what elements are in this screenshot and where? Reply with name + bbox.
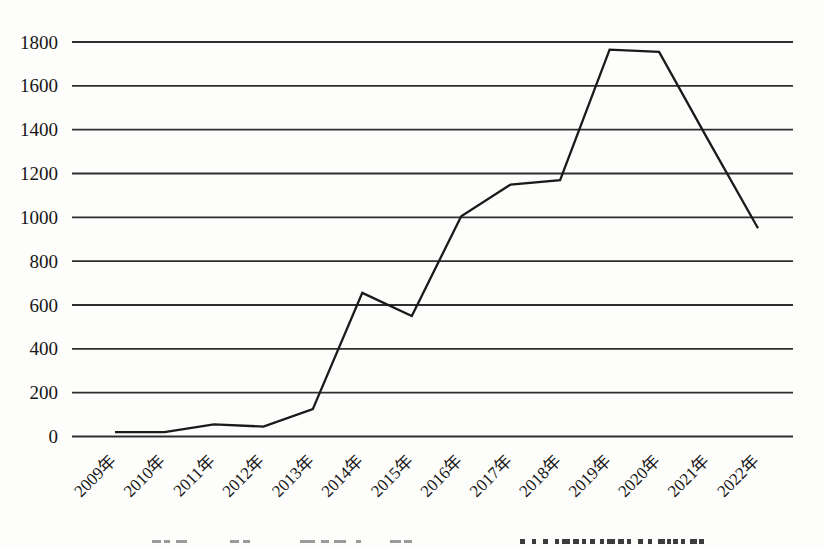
caption-glyph-top <box>658 539 665 544</box>
x-axis-tick-label: 2011年 <box>170 451 219 500</box>
caption-glyph-top <box>176 540 187 543</box>
data-line <box>115 50 758 432</box>
x-axis-tick-label: 2022年 <box>713 451 762 500</box>
caption-glyph-top <box>555 539 559 544</box>
x-axis-tick-label: 2021年 <box>664 451 713 500</box>
x-axis-tick-label: 2010年 <box>120 451 169 500</box>
caption-glyph-top <box>573 539 579 544</box>
caption-glyph-top <box>520 539 525 544</box>
caption-glyph-top <box>673 539 678 544</box>
caption-cropped-text <box>0 537 823 546</box>
caption-glyph-top <box>699 539 704 544</box>
caption-glyph-top <box>638 539 643 544</box>
caption-glyph-top <box>590 539 595 544</box>
x-axis-tick-label: 2019年 <box>565 451 614 500</box>
caption-glyph-top <box>243 540 250 543</box>
caption-glyph-top <box>532 539 536 544</box>
x-axis-tick-label: 2018年 <box>515 451 564 500</box>
caption-glyph-top <box>356 540 361 543</box>
caption-glyph-top <box>300 540 315 543</box>
y-axis-tick-label: 200 <box>30 382 59 403</box>
caption-glyph-top <box>152 540 161 543</box>
caption-glyph-top <box>648 539 652 544</box>
x-axis-tick-label: 2012年 <box>219 451 268 500</box>
y-axis-tick-label: 1600 <box>20 75 58 96</box>
x-axis-tick-label: 2016年 <box>417 451 466 500</box>
x-axis-tick-label: 2013年 <box>268 451 317 500</box>
y-axis-tick-label: 400 <box>30 338 59 359</box>
x-axis-tick-label: 2014年 <box>318 451 367 500</box>
caption-glyph-top <box>321 540 329 543</box>
y-axis-tick-label: 600 <box>30 295 59 316</box>
caption-glyph-top <box>681 539 685 544</box>
y-axis-tick-label: 1400 <box>20 119 58 140</box>
x-axis-tick-label: 2017年 <box>466 451 515 500</box>
x-axis-tick-label: 2020年 <box>614 451 663 500</box>
x-axis-tick-label: 2009年 <box>70 451 119 500</box>
y-axis-tick-label: 800 <box>30 251 59 272</box>
caption-glyph-top <box>390 540 401 543</box>
caption-glyph-top <box>543 539 548 544</box>
caption-glyph-top <box>667 539 671 544</box>
caption-glyph-top <box>230 540 239 543</box>
caption-glyph-top <box>582 539 586 544</box>
y-axis-tick-label: 1000 <box>20 207 58 228</box>
y-axis-tick-label: 0 <box>49 426 59 447</box>
x-axis-tick-label: 2015年 <box>367 451 416 500</box>
caption-glyph-top <box>562 539 570 544</box>
caption-glyph-top <box>607 539 615 544</box>
caption-glyph-top <box>334 540 346 543</box>
y-axis-tick-label: 1800 <box>20 32 58 53</box>
line-chart-figure: 0200400600800100012001400160018002009年20… <box>0 0 823 546</box>
caption-glyph-top <box>164 540 170 543</box>
caption-glyph-top <box>600 539 604 544</box>
caption-glyph-top <box>690 539 697 544</box>
caption-glyph-top <box>627 539 631 544</box>
chart-canvas: 0200400600800100012001400160018002009年20… <box>0 0 823 546</box>
y-axis-tick-label: 1200 <box>20 163 58 184</box>
caption-glyph-top <box>404 540 412 543</box>
caption-glyph-top <box>618 539 624 544</box>
